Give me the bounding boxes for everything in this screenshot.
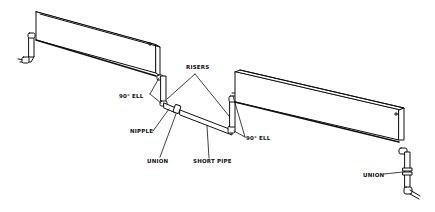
- label-short-pipe: SHORT PIPE: [193, 158, 232, 164]
- label-union-center: UNION: [147, 158, 168, 164]
- label-union-right: UNION: [363, 172, 384, 178]
- label-90-ell-left: 90° ELL: [119, 93, 144, 99]
- label-90-ell-right: 90° ELL: [246, 135, 271, 141]
- radiator-piping-diagram: [0, 0, 435, 212]
- left-inlet-pipe: [18, 33, 35, 63]
- right-radiator: [235, 70, 404, 142]
- label-risers: RISERS: [186, 64, 209, 70]
- label-nipple: NIPPLE: [130, 128, 153, 134]
- right-outlet-pipe: [399, 148, 420, 199]
- left-radiator: [36, 12, 160, 76]
